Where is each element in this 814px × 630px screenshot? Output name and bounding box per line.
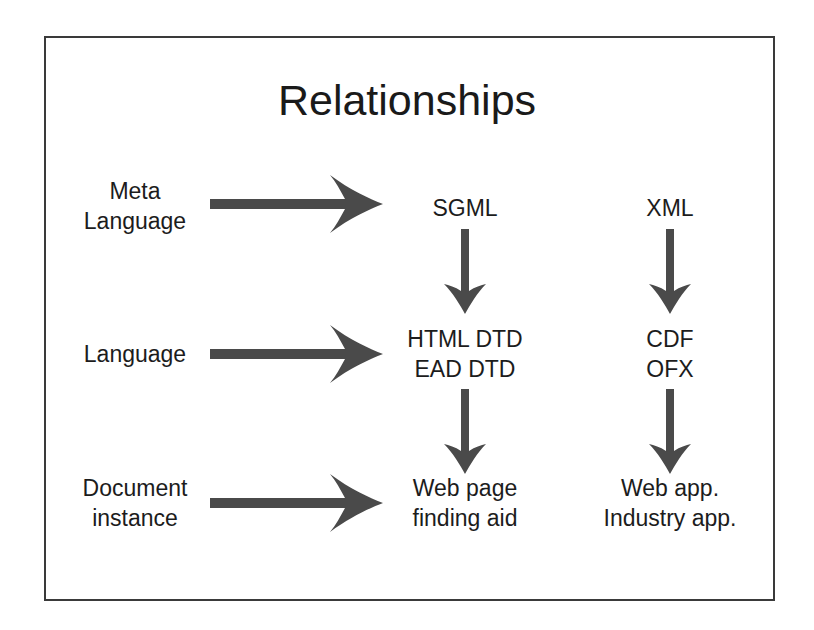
arrow-down-icon [649,389,691,474]
arrow-right-icon [210,474,383,532]
arrow-down-icon [444,389,486,474]
arrow-down-icon [444,229,486,314]
arrow-right-icon [210,175,383,233]
arrows-layer [0,0,814,630]
arrow-down-icon [649,229,691,314]
arrow-right-icon [210,325,383,383]
